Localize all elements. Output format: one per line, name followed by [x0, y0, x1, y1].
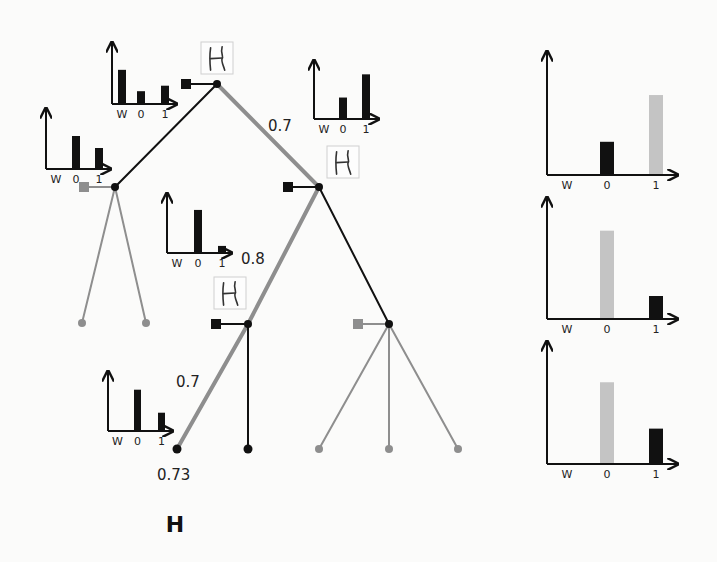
bar-1	[362, 74, 370, 119]
tick-label: 1	[653, 468, 660, 481]
tick-label: 1	[219, 257, 226, 270]
tick-label: 0	[604, 179, 611, 192]
square-marker-icon	[79, 182, 89, 192]
tree-node-leaf-c	[173, 445, 182, 454]
tick-label: 0	[195, 257, 202, 270]
bar-1	[95, 148, 103, 169]
bar-0	[194, 210, 202, 253]
tree-node-leaf-e	[315, 445, 323, 453]
histogram-mini-n2: W01	[314, 61, 378, 136]
tick-label: 0	[604, 468, 611, 481]
tick-label: 0	[340, 123, 347, 136]
bar-0	[134, 390, 141, 431]
glyph-stroke-bar	[337, 162, 349, 163]
tree-node-leaf-a	[78, 319, 86, 327]
histogram-right-3: W01	[547, 342, 677, 481]
score-label-leaf-score: 0.73	[157, 466, 190, 484]
score-label-n3-left: 0.7	[176, 373, 200, 391]
square-marker-icon	[211, 319, 221, 329]
histogram-mini-leaf: W01	[108, 372, 172, 448]
tick-label: W	[319, 123, 330, 136]
bar-0	[339, 98, 347, 119]
tree-node-leaf-b	[142, 319, 150, 327]
tick-label: 0	[604, 323, 611, 336]
tree-node-n4	[385, 320, 393, 328]
glyph-stroke-bar	[224, 293, 236, 294]
tick-label: 1	[96, 173, 103, 186]
tree-edge-n4-leaf-e	[319, 324, 389, 449]
bar-1	[218, 246, 226, 253]
tick-label: W	[562, 468, 573, 481]
tick-label: W	[172, 257, 183, 270]
tree-node-leaf-d	[244, 445, 253, 454]
score-label-n2-left: 0.8	[241, 250, 265, 268]
tick-label: 1	[363, 123, 370, 136]
tree-node-leaf-g	[454, 445, 462, 453]
tick-label: 1	[162, 108, 169, 121]
caption-letter: H	[166, 512, 184, 537]
histogram-right-2: W01	[547, 198, 677, 336]
tree-edge-root-n2	[217, 84, 319, 187]
bar-0	[600, 142, 614, 175]
glyph-stroke-bar	[211, 58, 223, 59]
bar-0	[137, 91, 145, 104]
thumb-n3	[214, 277, 246, 309]
tick-label: 0	[73, 173, 80, 186]
histogram-mini-n3: W01	[167, 194, 231, 270]
search-tree-figure: W01W01W01W01W01W01W01W01 0.70.80.70.73 H	[0, 0, 717, 562]
tick-label: 0	[134, 435, 141, 448]
tick-label: 0	[138, 108, 145, 121]
tick-label: 1	[158, 435, 165, 448]
histogram-mini-root: W01	[112, 43, 176, 121]
tree-node-root	[213, 80, 221, 88]
thumb-root	[201, 42, 233, 74]
histogram-right-1: W01	[547, 52, 677, 192]
tick-label: W	[117, 108, 128, 121]
bar-1	[649, 429, 663, 464]
tree-edge-n1-leaf-a	[82, 187, 115, 323]
bar-0	[600, 231, 614, 319]
square-marker-icon	[283, 182, 293, 192]
histogram-charts: W01W01W01W01W01W01W01W01	[46, 43, 677, 481]
tick-label: 1	[653, 179, 660, 192]
bar-0	[72, 136, 80, 169]
bar-1	[649, 296, 663, 319]
bar-0	[600, 382, 614, 464]
tree-node-leaf-f	[385, 445, 393, 453]
tree-node-n1	[111, 183, 119, 191]
tree-edge-n4-leaf-g	[389, 324, 458, 449]
bar-1	[161, 86, 169, 104]
histogram-mini-n1: W01	[46, 109, 110, 186]
square-marker-icon	[353, 319, 363, 329]
bar-W	[118, 70, 126, 104]
tick-label: W	[51, 173, 62, 186]
bar-1	[649, 95, 663, 175]
tick-label: W	[112, 435, 123, 448]
tree-node-n2	[315, 183, 323, 191]
tick-label: W	[562, 179, 573, 192]
tick-label: 1	[653, 323, 660, 336]
thumb-n2	[327, 146, 359, 178]
score-label-root-right: 0.7	[268, 117, 292, 135]
tree-edge-n2-n4	[319, 187, 389, 324]
tree-node-n3	[244, 320, 252, 328]
square-marker-icon	[181, 79, 191, 89]
tree-edge-n1-leaf-b	[115, 187, 146, 323]
tick-label: W	[562, 323, 573, 336]
bar-1	[158, 413, 165, 431]
